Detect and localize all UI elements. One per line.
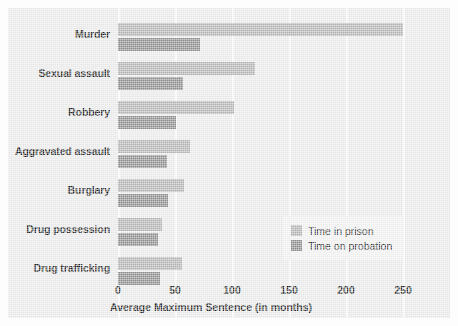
category-label-aggravated-assault: Aggravated assault	[15, 145, 110, 157]
bar-robbery-probation	[118, 116, 176, 129]
xtick-100: 100	[223, 284, 241, 296]
xtick-150: 150	[280, 284, 298, 296]
bar-drug-possession-probation	[118, 233, 158, 246]
gridline-50	[175, 8, 177, 318]
bar-drug-trafficking-probation	[118, 272, 160, 285]
category-label-murder: Murder	[75, 28, 110, 40]
gridline-200	[346, 8, 348, 318]
legend-label-prison: Time in prison	[308, 225, 374, 237]
bar-burglary-prison	[118, 179, 184, 192]
gridline-250	[403, 8, 405, 318]
category-label-sexual-assault: Sexual assault	[38, 67, 110, 79]
xtick-0: 0	[115, 284, 121, 296]
bar-drug-trafficking-prison	[118, 257, 182, 270]
bar-murder-probation	[118, 38, 200, 51]
bar-burglary-probation	[118, 194, 168, 207]
xtick-250: 250	[394, 284, 412, 296]
plot-area: Murder Sexual assault Robbery Aggravated…	[118, 8, 403, 318]
bar-aggravated-assault-prison	[118, 140, 190, 153]
gridline-100	[232, 8, 234, 318]
bar-sexual-assault-probation	[118, 77, 183, 90]
chart-panel: Murder Sexual assault Robbery Aggravated…	[8, 8, 450, 318]
category-label-robbery: Robbery	[68, 106, 110, 118]
chart-legend: Time in prison Time on probation	[283, 216, 402, 260]
bar-aggravated-assault-probation	[118, 155, 167, 168]
legend-label-probation: Time on probation	[308, 240, 392, 252]
category-label-drug-possession: Drug possession	[26, 223, 110, 235]
gridline-150	[289, 8, 291, 318]
legend-item-time-in-prison: Time in prison	[291, 223, 392, 238]
xtick-200: 200	[337, 284, 355, 296]
chart-screenshot: Murder Sexual assault Robbery Aggravated…	[0, 0, 458, 326]
bar-drug-possession-prison	[118, 218, 162, 231]
legend-swatch-icon-prison	[291, 225, 302, 236]
category-label-drug-trafficking: Drug trafficking	[33, 262, 110, 274]
category-label-burglary: Burglary	[68, 184, 110, 196]
xtick-50: 50	[169, 284, 181, 296]
legend-swatch-icon-probation	[291, 240, 302, 251]
bar-sexual-assault-prison	[118, 62, 255, 75]
bar-murder-prison	[118, 23, 403, 36]
legend-item-time-on-probation: Time on probation	[291, 238, 392, 253]
x-axis-title: Average Maximum Sentence (in months)	[110, 301, 312, 313]
bar-robbery-prison	[118, 101, 234, 114]
